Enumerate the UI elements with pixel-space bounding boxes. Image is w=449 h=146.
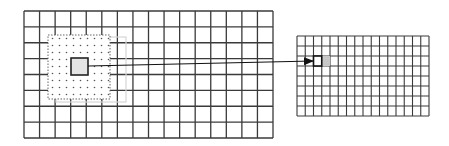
diagram-svg (0, 0, 449, 146)
output-feature-map-grid (297, 36, 429, 116)
diagram-canvas (0, 0, 449, 146)
next-output-cell (322, 56, 330, 66)
active-output-cell (314, 56, 322, 66)
center-cell (71, 58, 88, 75)
